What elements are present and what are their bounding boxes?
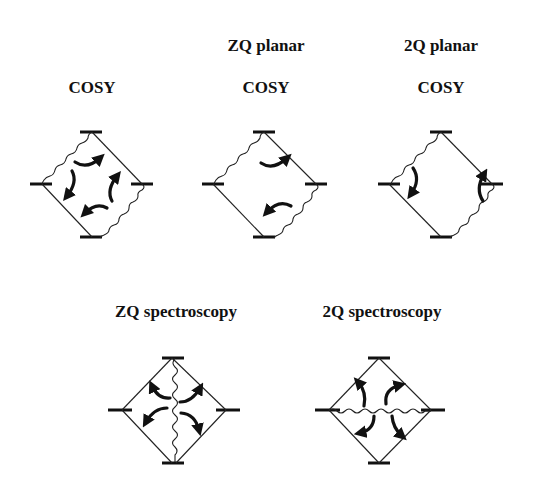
curved-arrow-icon xyxy=(392,416,402,436)
curved-arrow-icon xyxy=(479,174,484,201)
diagram-zq-planar-cosy xyxy=(202,132,327,238)
curved-arrow-icon xyxy=(180,388,200,402)
curved-arrow-icon xyxy=(152,386,170,398)
curved-arrow-icon xyxy=(411,168,417,194)
curved-arrow-icon xyxy=(267,204,291,212)
straight-transition xyxy=(389,184,441,237)
diagram-2q-spectroscopy xyxy=(315,358,445,463)
straight-transition xyxy=(329,410,379,463)
wavy-zero-quantum-transition xyxy=(173,358,178,462)
diagram-zq-spectroscopy xyxy=(108,358,240,463)
curved-arrow-icon xyxy=(85,206,107,213)
straight-transition xyxy=(329,358,379,410)
straight-transition xyxy=(264,132,316,184)
curved-arrow-icon xyxy=(386,385,400,404)
wavy-transition xyxy=(42,132,92,184)
wavy-double-quantum-transition xyxy=(329,409,431,413)
curved-arrow-icon xyxy=(358,382,365,406)
straight-transition xyxy=(122,358,172,410)
wavy-transition xyxy=(100,184,144,238)
curved-arrow-icon xyxy=(110,176,117,201)
curved-arrow-icon xyxy=(360,416,374,433)
straight-transition xyxy=(213,184,264,237)
curved-arrow-icon xyxy=(146,408,167,422)
straight-transition xyxy=(176,410,226,463)
curved-arrow-icon xyxy=(67,171,74,196)
curved-arrow-icon xyxy=(75,158,100,165)
diagram-cosy xyxy=(30,132,153,238)
curved-arrow-icon xyxy=(261,158,287,166)
straight-transition xyxy=(42,184,92,237)
wavy-transition xyxy=(214,132,264,184)
straight-transition xyxy=(379,410,431,463)
wavy-transition xyxy=(450,184,494,238)
curved-arrow-icon xyxy=(181,413,199,430)
diagram-2q-planar-cosy xyxy=(378,132,503,238)
wavy-transition xyxy=(274,184,318,238)
